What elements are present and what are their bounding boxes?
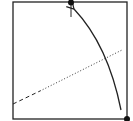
dashed-line-segment: [13, 91, 40, 104]
top-point-dot: [68, 0, 74, 6]
bottom-right-point-dot: [124, 116, 130, 121]
curved-arrow: [74, 9, 121, 110]
square-outline: [13, 2, 127, 119]
diagram-canvas: [0, 0, 133, 121]
